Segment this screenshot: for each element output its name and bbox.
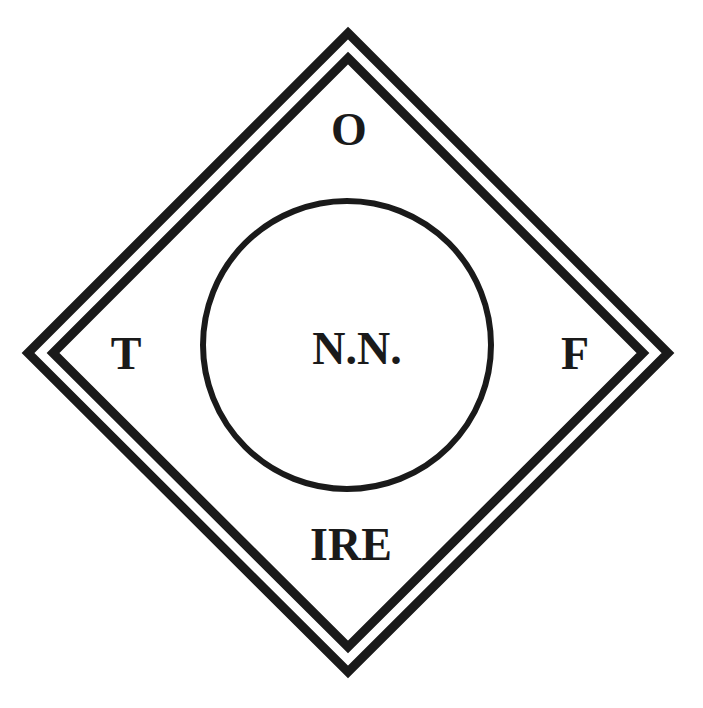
- diamond-diagram: O T F IRE N.N.: [0, 0, 703, 708]
- label-top: O: [331, 104, 367, 155]
- label-right: F: [561, 328, 589, 379]
- label-center: N.N.: [312, 323, 401, 374]
- label-left: T: [111, 328, 142, 379]
- label-bottom: IRE: [310, 519, 392, 570]
